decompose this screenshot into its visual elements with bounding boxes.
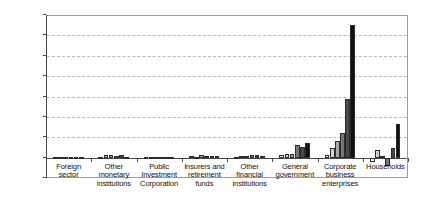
- bar: [391, 148, 396, 158]
- bar: [380, 156, 385, 158]
- bar: [290, 154, 295, 158]
- bar: [119, 155, 124, 157]
- bar: [124, 157, 129, 159]
- bars-layer: [46, 15, 408, 178]
- x-category-label-line: Households: [357, 163, 414, 172]
- bar: [345, 99, 350, 158]
- bar: [300, 147, 305, 157]
- bar: [350, 25, 355, 157]
- bar: [285, 154, 290, 157]
- bar: [58, 157, 63, 159]
- bar: [169, 157, 174, 159]
- bar: [239, 156, 244, 158]
- bar: [250, 155, 255, 157]
- x-category-label: Households: [357, 163, 414, 172]
- bar: [194, 157, 199, 159]
- bar: [330, 148, 335, 158]
- x-tick-mark: [46, 158, 47, 162]
- bar: [74, 157, 79, 159]
- bar: [69, 157, 74, 159]
- bar: [295, 145, 300, 158]
- x-category-label-line: institutions: [221, 180, 278, 189]
- bar: [396, 124, 401, 158]
- bar: [154, 157, 159, 159]
- bar: [63, 157, 68, 159]
- bar: [305, 143, 310, 157]
- bar: [164, 157, 169, 159]
- x-tick-mark: [227, 158, 228, 162]
- bar: [189, 156, 194, 158]
- x-tick-mark: [137, 158, 138, 162]
- bar: [53, 157, 58, 159]
- bar: [210, 156, 215, 158]
- bar: [215, 156, 220, 158]
- bar: [149, 157, 154, 159]
- bar: [159, 157, 164, 159]
- bar: [325, 155, 330, 158]
- bar: [340, 133, 345, 157]
- bar: [204, 156, 209, 158]
- bar: [79, 157, 84, 159]
- x-tick-mark: [272, 158, 273, 162]
- bar-chart: 140000120000100000800006000040000200000-…: [0, 0, 422, 204]
- bar: [98, 157, 103, 159]
- bar: [199, 155, 204, 158]
- x-tick-mark: [318, 158, 319, 162]
- bar: [114, 156, 119, 158]
- bar: [375, 150, 380, 158]
- bar: [144, 157, 149, 159]
- bar: [335, 141, 340, 157]
- x-tick-mark: [182, 158, 183, 162]
- bar: [109, 155, 114, 158]
- bar: [234, 157, 239, 159]
- bar: [104, 155, 109, 157]
- bar: [279, 155, 284, 158]
- x-tick-mark: [91, 158, 92, 162]
- x-category-label-line: enterprises: [312, 180, 369, 189]
- bar: [255, 155, 260, 158]
- bar: [244, 156, 249, 158]
- x-tick-mark: [408, 158, 409, 162]
- bar: [260, 156, 265, 158]
- x-tick-mark: [363, 158, 364, 162]
